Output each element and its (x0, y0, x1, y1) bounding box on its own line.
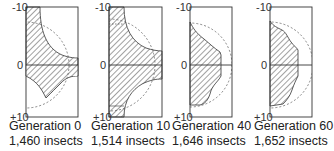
insect-count: 1,460 insects (9, 134, 83, 149)
hatched-distribution (26, 7, 78, 98)
tick-top-panel-2: -10 (95, 2, 111, 13)
tick-middle-panel-3: 0 (181, 60, 187, 71)
tick-middle-panel-2: 0 (100, 60, 106, 71)
caption-panel-3: Generation 40 1,646 insects (172, 119, 251, 148)
caption-panel-2: Generation 10 1,514 insects (91, 119, 170, 148)
tick-middle-panel-4: 0 (261, 60, 267, 71)
hatched-distribution (190, 22, 221, 105)
generation-label: Generation 60 (254, 119, 333, 134)
tick-middle-panel-1: 0 (17, 60, 23, 71)
insect-count: 1,646 insects (172, 134, 251, 149)
panel-generation-0 (0, 7, 78, 117)
hatched-distribution (270, 21, 298, 106)
tick-top-panel-4: -10 (256, 2, 272, 13)
tick-top-panel-3: -10 (176, 2, 192, 13)
insect-count: 1,514 insects (91, 134, 170, 149)
generation-label: Generation 40 (172, 119, 251, 134)
tick-top-panel-1: -10 (12, 2, 28, 13)
caption-panel-1: Generation 0 1,460 insects (9, 119, 83, 148)
caption-panel-4: Generation 60 1,652 insects (254, 119, 333, 148)
hatched-distribution (109, 7, 162, 117)
insect-count: 1,652 insects (254, 134, 333, 149)
generation-label: Generation 0 (9, 119, 83, 134)
panel-generation-60 (227, 7, 313, 117)
generation-label: Generation 10 (91, 119, 170, 134)
